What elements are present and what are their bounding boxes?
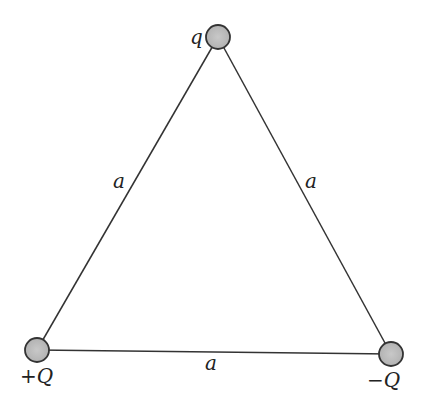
charge-bottom-left [25, 338, 49, 362]
side-left [37, 37, 218, 350]
charge-bottom-right [379, 342, 403, 366]
label-side-left: a [113, 169, 125, 193]
label-side-right: a [305, 169, 317, 193]
label-side-bottom: a [205, 351, 217, 375]
triangle-diagram: q a a a +Q −Q [0, 0, 425, 411]
charge-top [206, 25, 230, 49]
side-right [218, 37, 391, 354]
label-minus-q: −Q [367, 368, 400, 392]
label-plus-q: +Q [20, 364, 53, 388]
label-q: q [190, 25, 203, 49]
